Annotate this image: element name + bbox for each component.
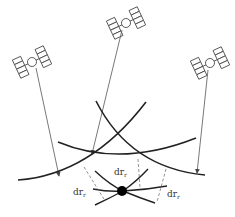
signal-ray-left (36, 68, 59, 176)
label-dr-top: drr (114, 168, 127, 178)
error-dash-center (138, 159, 140, 188)
label-dr-left: drr (73, 188, 86, 198)
error-arc-2 (93, 186, 167, 191)
error-dash-right (157, 169, 166, 202)
signal-ray-center (92, 30, 122, 154)
range-arc-center (58, 138, 196, 154)
error-arc-1b (123, 191, 155, 203)
label-dr-right: drr (167, 190, 180, 200)
receiver-dot (117, 186, 127, 196)
positioning-diagram (0, 0, 235, 217)
error-dash-left (84, 167, 104, 199)
satellite-icon-center (106, 7, 145, 39)
satellite-icon-left (12, 46, 51, 78)
signal-ray-right (197, 70, 208, 173)
satellite-icon-right (190, 47, 229, 79)
